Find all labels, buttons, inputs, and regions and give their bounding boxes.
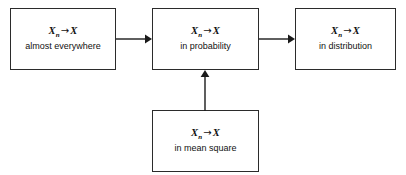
node-almost-everywhere: Xn→X almost everywhere — [10, 8, 116, 70]
math-variable-target: X — [213, 127, 220, 138]
node-label: almost everywhere — [25, 41, 101, 52]
node-in-probability: Xn→X in probability — [152, 8, 259, 70]
math-variable-base: X — [48, 25, 55, 36]
node-math-expression: Xn→X — [331, 25, 360, 40]
math-arrow-icon: → — [60, 25, 71, 36]
node-label: in probability — [180, 41, 231, 52]
node-in-mean-square: Xn→X in mean square — [152, 110, 259, 172]
node-label: in distribution — [319, 41, 372, 52]
node-label: in mean square — [174, 143, 236, 154]
node-math-expression: Xn→X — [191, 127, 220, 142]
convergence-flowchart: Xn→X almost everywhere Xn→X in probabili… — [0, 0, 406, 175]
node-math-expression: Xn→X — [191, 25, 220, 40]
math-variable-target: X — [213, 25, 220, 36]
math-arrow-icon: → — [342, 25, 353, 36]
math-variable-target: X — [353, 25, 360, 36]
node-in-distribution: Xn→X in distribution — [295, 8, 396, 70]
edge-almost-everywhere-to-in-probability — [116, 31, 153, 47]
math-arrow-icon: → — [202, 25, 213, 36]
node-math-expression: Xn→X — [48, 25, 77, 40]
math-arrow-icon: → — [202, 127, 213, 138]
math-variable-target: X — [70, 25, 77, 36]
edge-in-mean-square-to-in-probability — [197, 69, 213, 111]
edge-in-probability-to-in-distribution — [259, 31, 296, 47]
